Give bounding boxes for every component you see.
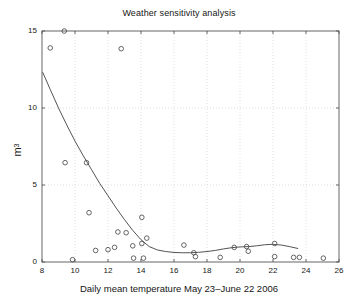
data-point-marker bbox=[321, 256, 326, 261]
data-point-marker bbox=[106, 247, 111, 252]
data-point-marker bbox=[48, 46, 53, 51]
data-point-marker bbox=[130, 244, 135, 249]
data-point-marker bbox=[140, 241, 145, 246]
data-point-marker bbox=[218, 255, 223, 260]
data-point-marker bbox=[140, 215, 145, 220]
chart-figure: Weather sensitivity analysis m3 Daily me… bbox=[0, 0, 358, 306]
data-point-marker bbox=[291, 255, 296, 260]
data-point-marker bbox=[141, 256, 146, 261]
data-point-marker bbox=[70, 257, 75, 262]
scatter-plot-canvas bbox=[0, 0, 358, 306]
data-point-marker bbox=[116, 230, 121, 235]
plot-axes-frame bbox=[42, 31, 339, 262]
data-point-marker bbox=[272, 241, 277, 246]
data-point-marker bbox=[119, 46, 124, 51]
data-point-marker bbox=[112, 245, 117, 250]
fitted-trend-line bbox=[43, 73, 298, 253]
tickmarks bbox=[42, 31, 339, 262]
data-point-marker bbox=[246, 249, 251, 254]
data-point-marker bbox=[63, 160, 68, 165]
data-point-markers bbox=[48, 29, 326, 262]
data-point-marker bbox=[93, 248, 98, 253]
data-point-marker bbox=[124, 230, 129, 235]
data-point-marker bbox=[297, 255, 302, 260]
data-point-marker bbox=[144, 236, 149, 241]
data-point-marker bbox=[131, 256, 136, 261]
data-point-marker bbox=[182, 243, 187, 248]
data-point-marker bbox=[193, 254, 198, 259]
data-point-marker bbox=[87, 210, 92, 215]
gridlines bbox=[42, 31, 339, 262]
